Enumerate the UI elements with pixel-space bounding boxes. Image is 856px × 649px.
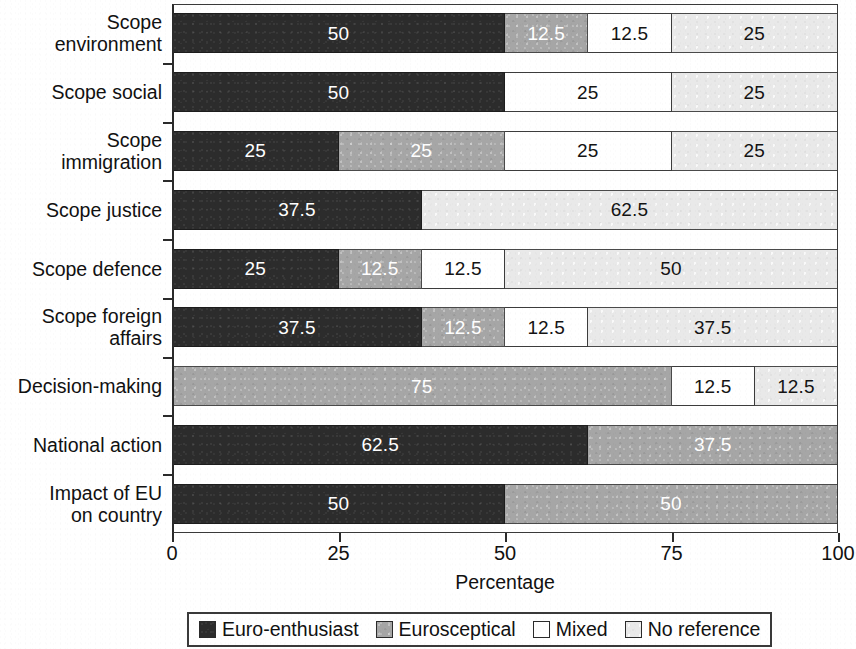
bar-segment-euro-enthusiast: 50 [172, 13, 505, 53]
chart-page: Scope environmentScope socialScope immig… [0, 0, 856, 649]
bar-segment-value: 50 [660, 494, 681, 513]
bar-segment-no-reference: 25 [672, 72, 839, 112]
bar-segment-value: 37.5 [278, 200, 315, 219]
legend-item-no-reference[interactable]: No reference [625, 619, 761, 639]
bar-segment-value: 62.5 [611, 200, 648, 219]
x-axis-tick-label: 25 [327, 541, 349, 565]
bar-segment-value: 50 [328, 24, 349, 43]
bar-segment-no-reference: 25 [672, 13, 839, 53]
x-axis-tick-label: 50 [494, 541, 516, 565]
y-axis-tick [163, 180, 172, 182]
y-axis-labels: Scope environmentScope socialScope immig… [0, 4, 162, 533]
bar-row: 2512.512.550 [172, 249, 838, 289]
bar-segment-eurosceptical: 50 [505, 484, 838, 524]
bar-segment-value: 12.5 [611, 24, 648, 43]
bar-segment-mixed: 25 [505, 131, 672, 171]
bar-row: 37.512.512.537.5 [172, 307, 838, 347]
bar-segment-eurosceptical: 25 [339, 131, 506, 171]
x-axis-tick-labels: 0255075100 [0, 541, 856, 567]
bar-segment-euro-enthusiast: 62.5 [172, 425, 588, 465]
bar-segment-value: 37.5 [694, 435, 731, 454]
plot-area: 5012.512.5255025252525252537.562.52512.5… [172, 4, 838, 533]
bar-row: 5050 [172, 484, 838, 524]
legend-label: No reference [648, 619, 761, 639]
bar-segment-value: 12.5 [361, 259, 398, 278]
bar-segment-value: 62.5 [361, 435, 398, 454]
legend-label: Mixed [556, 619, 608, 639]
bar-segment-value: 75 [411, 377, 432, 396]
y-axis-label-3: Scope justice [0, 199, 162, 221]
y-axis-label-2: Scope immigration [0, 129, 162, 173]
bar-segment-value: 12.5 [444, 318, 481, 337]
bar-segment-value: 12.5 [527, 318, 564, 337]
bar-segment-value: 12.5 [694, 377, 731, 396]
bar-row: 37.562.5 [172, 190, 838, 230]
x-axis-tick-label: 0 [166, 541, 177, 565]
bar-segment-euro-enthusiast: 50 [172, 72, 505, 112]
y-axis-label-0: Scope environment [0, 11, 162, 55]
bar-segment-no-reference: 62.5 [422, 190, 838, 230]
legend-swatch-icon [199, 621, 216, 638]
bar-segment-value: 50 [328, 83, 349, 102]
bar-segment-value: 12.5 [527, 24, 564, 43]
legend-swatch-icon [376, 621, 393, 638]
y-axis-tick [163, 415, 172, 417]
y-axis-label-4: Scope defence [0, 258, 162, 280]
bar-segment-mixed: 12.5 [422, 249, 505, 289]
y-axis-tick [163, 298, 172, 300]
y-axis-label-1: Scope social [0, 81, 162, 103]
bar-segment-mixed: 12.5 [672, 366, 755, 406]
y-axis-tick [163, 122, 172, 124]
bar-segment-euro-enthusiast: 25 [172, 131, 339, 171]
y-axis-tick [163, 357, 172, 359]
bar-segment-eurosceptical: 12.5 [505, 13, 588, 53]
bar-segment-value: 25 [245, 259, 266, 278]
bar-segment-value: 37.5 [278, 318, 315, 337]
bar-segment-value: 25 [577, 83, 598, 102]
y-axis-label-7: National action [0, 434, 162, 456]
bar-segment-value: 50 [660, 259, 681, 278]
bar-row: 62.537.5 [172, 425, 838, 465]
bar-segment-euro-enthusiast: 50 [172, 484, 505, 524]
bar-segment-euro-enthusiast: 37.5 [172, 190, 422, 230]
chart-legend: Euro-enthusiastEuroscepticalMixedNo refe… [187, 612, 772, 647]
bar-segment-no-reference: 37.5 [588, 307, 838, 347]
x-axis-tick-label: 75 [660, 541, 682, 565]
bar-segment-value: 25 [245, 141, 266, 160]
x-axis-title: Percentage [172, 571, 838, 594]
bar-rows: 5012.512.5255025252525252537.562.52512.5… [172, 4, 838, 533]
bar-row: 7512.512.5 [172, 366, 838, 406]
bar-segment-value: 25 [744, 141, 765, 160]
legend-label: Euro-enthusiast [222, 619, 359, 639]
legend-item-mixed[interactable]: Mixed [533, 619, 608, 639]
legend-swatch-icon [533, 621, 550, 638]
bar-segment-value: 25 [744, 83, 765, 102]
bar-segment-mixed: 25 [505, 72, 672, 112]
y-axis-tick [163, 63, 172, 65]
bar-segment-value: 50 [328, 494, 349, 513]
legend-swatch-icon [625, 621, 642, 638]
y-axis-label-8: Impact of EU on country [0, 482, 162, 526]
bar-segment-eurosceptical: 12.5 [422, 307, 505, 347]
x-axis-tick-label: 100 [821, 541, 854, 565]
bar-segment-eurosceptical: 12.5 [339, 249, 422, 289]
bar-segment-euro-enthusiast: 25 [172, 249, 339, 289]
bar-segment-no-reference: 12.5 [755, 366, 838, 406]
bar-row: 5012.512.525 [172, 13, 838, 53]
bar-segment-value: 12.5 [444, 259, 481, 278]
y-axis-label-5: Scope foreign affairs [0, 305, 162, 349]
bar-segment-mixed: 12.5 [505, 307, 588, 347]
y-axis-tick [163, 239, 172, 241]
legend-label: Eurosceptical [399, 619, 516, 639]
bar-segment-no-reference: 50 [505, 249, 838, 289]
bar-row: 25252525 [172, 131, 838, 171]
y-axis-tick [163, 474, 172, 476]
bar-segment-euro-enthusiast: 37.5 [172, 307, 422, 347]
bar-segment-value: 37.5 [694, 318, 731, 337]
bar-segment-value: 25 [577, 141, 598, 160]
legend-item-eurosceptical[interactable]: Eurosceptical [376, 619, 516, 639]
bar-segment-eurosceptical: 75 [172, 366, 672, 406]
bar-segment-value: 25 [744, 24, 765, 43]
bar-segment-no-reference: 25 [672, 131, 839, 171]
legend-item-euro-enthusiast[interactable]: Euro-enthusiast [199, 619, 359, 639]
